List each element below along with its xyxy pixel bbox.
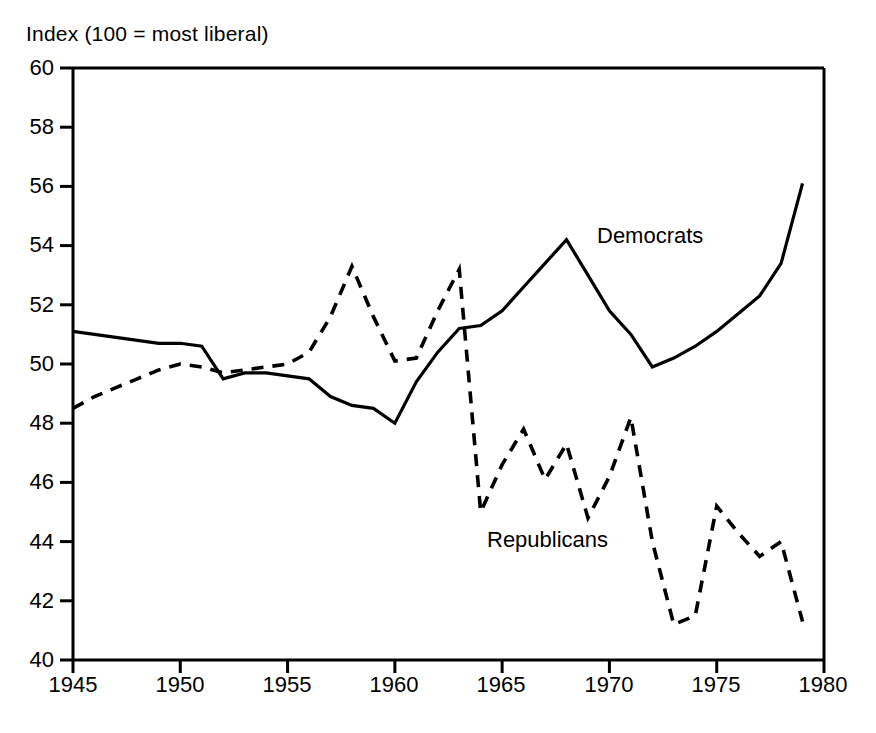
- y-tick-label-52: 52: [14, 292, 54, 318]
- series-label-republicans: Republicans: [487, 527, 608, 553]
- y-tick-label-44: 44: [14, 529, 54, 555]
- y-tick-label-58: 58: [14, 114, 54, 140]
- y-tick-label-54: 54: [14, 232, 54, 258]
- y-tick-label-46: 46: [14, 469, 54, 495]
- y-tick-label-48: 48: [14, 410, 54, 436]
- y-axis-ticks: [60, 68, 73, 660]
- x-tick-label-1955: 1955: [252, 672, 322, 698]
- chart-figure: Index (100 = most liberal) 60 58 56 54 5…: [0, 0, 876, 733]
- y-tick-label-56: 56: [14, 173, 54, 199]
- x-tick-label-1965: 1965: [466, 672, 536, 698]
- plot-area: [0, 0, 876, 733]
- x-tick-label-1970: 1970: [574, 672, 644, 698]
- x-tick-label-1950: 1950: [145, 672, 215, 698]
- series-line-democrats: [73, 183, 803, 423]
- series-line-republicans: [73, 266, 803, 624]
- chart-title: Index (100 = most liberal): [26, 22, 269, 46]
- x-tick-label-1945: 1945: [38, 672, 108, 698]
- x-tick-label-1960: 1960: [359, 672, 429, 698]
- y-tick-label-50: 50: [14, 351, 54, 377]
- y-tick-label-40: 40: [14, 647, 54, 673]
- x-tick-label-1980: 1980: [788, 672, 858, 698]
- y-tick-label-60: 60: [14, 55, 54, 81]
- y-tick-label-42: 42: [14, 588, 54, 614]
- series-label-democrats: Democrats: [597, 223, 703, 249]
- x-tick-label-1975: 1975: [681, 672, 751, 698]
